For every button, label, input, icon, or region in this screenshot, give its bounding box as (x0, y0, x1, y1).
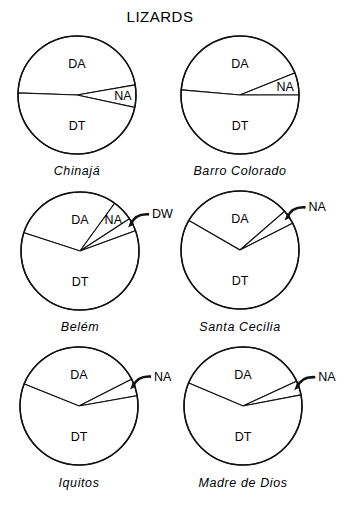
site-label: Barro Colorado (193, 164, 286, 178)
site-label: Iquitos (58, 476, 99, 490)
slice-label-dt: DT (232, 119, 249, 133)
slice-label-na: NA (105, 213, 123, 227)
slice-label-dt: DT (235, 430, 252, 444)
site-label: Madre de Dios (198, 476, 287, 490)
pie-madre-de-dios: DANADTMadre de Dios (184, 347, 336, 490)
slice-label-da: DA (70, 368, 88, 382)
pie-iquitos: DANADTIquitos (20, 347, 172, 490)
pointer-arrow-na (288, 207, 306, 217)
site-label: Chinajá (54, 164, 101, 178)
slice-label-dw: DW (152, 207, 173, 221)
slice-label-da: DA (234, 368, 252, 382)
slice-label-da: DA (231, 212, 249, 226)
slice-label-da: DA (68, 57, 86, 71)
pie-chart-figure: LIZARDS DANADTChinajáDANADTBarro Colorad… (0, 0, 347, 507)
pie-barro-colorado: DANADTBarro Colorado (181, 36, 299, 178)
site-label: Santa Cecilia (199, 320, 280, 334)
slice-label-da: DA (231, 57, 249, 71)
chart-title: LIZARDS (127, 8, 194, 25)
pointer-arrow-na (297, 377, 315, 387)
pie-chinaj-: DANADTChinajá (18, 36, 136, 178)
slice-label-dt: DT (72, 275, 89, 289)
slice-label-na: NA (318, 370, 336, 384)
slice-label-na: NA (309, 200, 327, 214)
slice-label-na: NA (114, 89, 132, 103)
slice-label-na: NA (277, 80, 295, 94)
pie-santa-cecilia: DANADTSanta Cecilia (181, 191, 327, 334)
slice-label-dt: DT (71, 430, 88, 444)
slice-label-dt: DT (232, 274, 249, 288)
pointer-arrow-na (133, 377, 151, 387)
site-label: Belém (61, 320, 99, 334)
slice-label-da: DA (71, 213, 89, 227)
slice-label-dt: DT (69, 119, 86, 133)
pie-bel-m: DANADWDTBelém (21, 192, 173, 334)
slice-label-na: NA (154, 370, 172, 384)
pointer-arrow-dw (131, 214, 149, 224)
